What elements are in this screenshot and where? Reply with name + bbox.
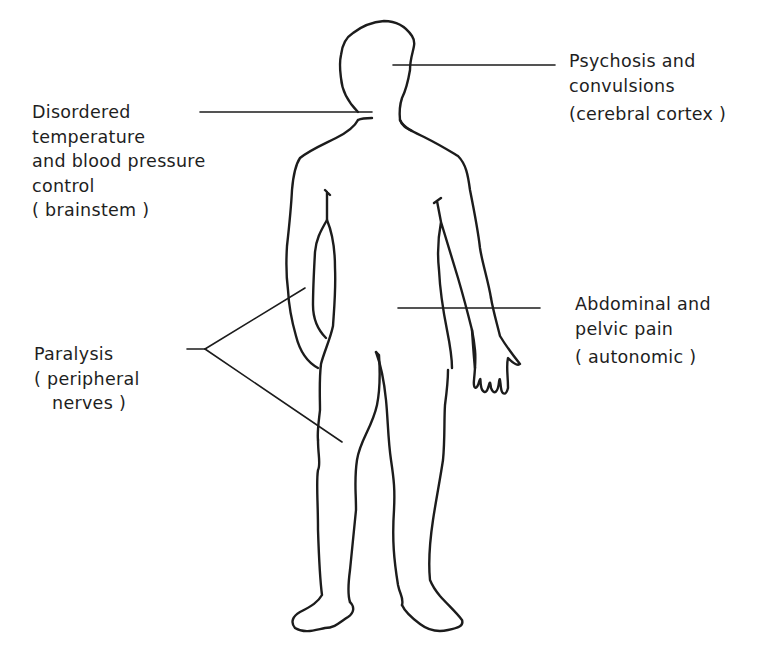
label-paralysis-region-2: nerves ) [34,391,140,416]
left-shoulder-arm-outline [286,120,358,368]
pointer-paralysis-arm [205,288,305,349]
label-brainstem-line-2: temperature [32,125,206,150]
label-cerebral-cortex: Psychosis and convulsions (cerebral cort… [569,49,726,127]
left-leg-outer [293,440,354,631]
right-arm-inner [434,198,475,368]
label-autonomic-region: ( autonomic ) [575,345,711,370]
label-autonomic: Abdominal and pelvic pain ( autonomic ) [575,292,711,370]
label-autonomic-line-2: pelvic pain [575,317,711,342]
label-brainstem-line-1: Disordered [32,100,206,125]
right-shoulder-torso [400,120,491,298]
anatomical-figure: Disordered temperature and blood pressur… [0,0,772,672]
label-autonomic-line-1: Abdominal and [575,292,711,317]
label-cortex-line-1: Psychosis and [569,49,726,74]
label-paralysis-line-1: Paralysis [34,342,140,367]
label-paralysis: Paralysis ( peripheral nerves ) [34,342,140,416]
label-brainstem: Disordered temperature and blood pressur… [32,100,206,223]
chin-detail [358,118,372,120]
label-brainstem-region: ( brainstem ) [32,198,206,223]
left-arm-inner-line [313,190,330,338]
label-cortex-region: (cerebral cortex ) [569,102,726,127]
right-hand [472,298,520,394]
label-paralysis-region-1: ( peripheral [34,367,140,392]
label-brainstem-line-4: control [32,174,206,199]
right-leg-outline [402,370,462,631]
head-outline [340,21,414,131]
label-cortex-line-2: convulsions [569,74,726,99]
left-leg-inner [349,352,380,602]
label-brainstem-line-3: and blood pressure [32,149,206,174]
